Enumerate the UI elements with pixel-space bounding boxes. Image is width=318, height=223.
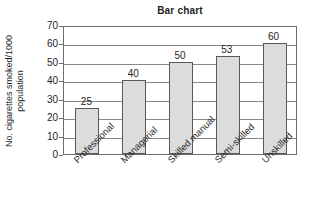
- bar-value-label: 50: [160, 51, 200, 61]
- bar-value-label: 60: [254, 32, 294, 42]
- bar-value-label: 53: [207, 45, 247, 55]
- y-axis-tick-label: 50: [38, 58, 58, 68]
- y-axis-tick-label: 30: [38, 95, 58, 105]
- bar-value-label: 25: [66, 97, 106, 107]
- y-axis-tick-label: 0: [38, 150, 58, 160]
- y-axis-tick-label: 40: [38, 76, 58, 86]
- x-axis-category-labels: ProfessionalManagerialSkilled manualSemi…: [63, 156, 297, 223]
- y-axis-tick-label: 10: [38, 132, 58, 142]
- gridline: [64, 45, 296, 46]
- y-axis-tick-label: 20: [38, 113, 58, 123]
- y-axis-title-line-1: No. cigarettes smoked/1000: [4, 34, 15, 146]
- y-axis-title-line-2: population: [15, 34, 26, 146]
- bar-chart-figure: Bar chart No. cigarettes smoked/1000 pop…: [0, 0, 318, 223]
- y-axis-tick-label: 60: [38, 39, 58, 49]
- y-axis-title: No. cigarettes smoked/1000 population: [2, 26, 28, 155]
- y-axis-tick-label: 70: [38, 21, 58, 31]
- y-axis-tick-labels: 706050403020100: [36, 26, 58, 155]
- chart-title: Bar chart: [63, 5, 297, 16]
- bar-value-label: 40: [113, 69, 153, 79]
